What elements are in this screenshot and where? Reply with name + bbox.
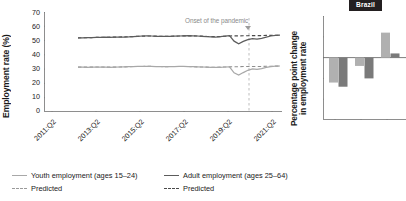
left-xtick-2017q2: 2017:Q2 [142, 118, 190, 166]
bar-2021q4-adult [391, 53, 400, 57]
left-ytick-0: 0 [14, 107, 40, 114]
left-ytick-20: 20 [14, 79, 40, 86]
left-xtick-2021q2: 2021:Q2 [230, 118, 278, 166]
legend-youth-predicted: Predicted [12, 184, 62, 193]
legend-adult-predicted-label: Predicted [183, 184, 214, 193]
legend-youth-label: Youth employment (ages 15–24) [31, 171, 138, 180]
chart-figure: Employment rate (%) 70 60 50 40 30 20 10… [0, 0, 406, 201]
bar-2021q1-youth [355, 58, 364, 66]
bar-2020q2-youth [329, 58, 338, 83]
legend-youth-solid: Youth employment (ages 15–24) [12, 171, 138, 180]
youth-employment-line [78, 66, 280, 75]
bar-2021q1-adult [365, 58, 374, 79]
legend-adult-predicted: Predicted [164, 184, 214, 193]
left-ytick-70: 70 [14, 9, 40, 16]
country-badge: Brazil [349, 0, 382, 11]
left-xtick-2015q2: 2015:Q2 [98, 118, 146, 166]
left-y-axis-label: Employment rate (%) [1, 8, 11, 118]
right-y-axis-label-line1: Percentage point change [290, 31, 299, 126]
legend-adult-predicted-swatch [164, 188, 179, 189]
bar-2021q4-youth [381, 33, 390, 58]
left-ytick-50: 50 [14, 37, 40, 44]
legend-youth-predicted-swatch [12, 188, 27, 189]
legend-adult-line-swatch [164, 175, 179, 176]
right-plot-area [323, 16, 406, 120]
adult-employment-line [78, 35, 280, 44]
left-legend: Youth employment (ages 15–24) Adult empl… [12, 170, 290, 196]
percentage-point-change-bar-chart: Brazil Percentage point change in employ… [290, 0, 406, 201]
employment-rate-line-chart: Employment rate (%) 70 60 50 40 30 20 10… [0, 0, 290, 201]
legend-youth-predicted-label: Predicted [31, 184, 62, 193]
left-ytick-40: 40 [14, 51, 40, 58]
left-xtick-2013q2: 2013:Q2 [54, 118, 102, 166]
left-xtick-2011q2: 2011:Q2 [10, 118, 58, 166]
left-ytick-60: 60 [14, 23, 40, 30]
right-y-axis-label-line2: in employment rate [299, 42, 308, 115]
legend-adult-solid: Adult employment (ages 25–64) [164, 171, 288, 180]
pandemic-annotation-label: Onset of the pandemic [185, 17, 248, 24]
right-y-axis-label: Percentage point change in employment ra… [290, 14, 309, 126]
left-xtick-2019q2: 2019:Q2 [186, 118, 234, 166]
bar-2020q2-adult [339, 58, 348, 87]
left-ytick-10: 10 [14, 93, 40, 100]
legend-youth-line-swatch [12, 175, 27, 176]
legend-adult-label: Adult employment (ages 25–64) [183, 171, 288, 180]
left-ytick-30: 30 [14, 65, 40, 72]
pandemic-marker-triangle-icon [245, 26, 251, 30]
